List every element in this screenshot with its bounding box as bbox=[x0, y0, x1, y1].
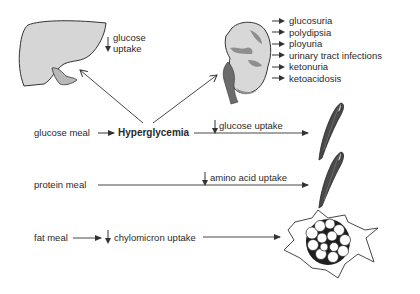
decrease-arrow-icon bbox=[105, 37, 111, 52]
arrow-to-kidney bbox=[153, 75, 217, 123]
effect-label: polydipsia bbox=[289, 27, 331, 38]
chylomicron-uptake-label: chylomicron uptake bbox=[114, 232, 196, 243]
kidney-effects-list: glucosuria polydipsia ployuria urinary t… bbox=[272, 15, 382, 84]
decrease-arrow-icon bbox=[212, 120, 218, 134]
effect-label: ployuria bbox=[289, 38, 322, 49]
muscle-icon bbox=[319, 103, 344, 160]
muscle-glucose-uptake-label: glucose uptake bbox=[219, 120, 283, 131]
decrease-arrow-icon bbox=[105, 230, 111, 244]
list-item: ketonuria bbox=[272, 61, 382, 73]
kidney-icon bbox=[223, 22, 270, 104]
liver-label-line1: glucose bbox=[113, 32, 146, 43]
adipose-cell-icon bbox=[284, 210, 378, 278]
liver-label-line2: uptake bbox=[113, 43, 146, 54]
arrow-right-icon bbox=[272, 28, 286, 36]
list-item: polydipsia bbox=[272, 27, 382, 39]
arrow-right-icon bbox=[272, 74, 286, 82]
liver-icon bbox=[19, 21, 106, 86]
amino-acid-uptake-label: amino acid uptake bbox=[210, 172, 287, 183]
decrease-arrow-icon bbox=[202, 172, 208, 186]
effect-label: ketoacidosis bbox=[289, 73, 341, 84]
hyperglycemia-label: Hyperglycemia bbox=[118, 127, 189, 138]
list-item: urinary tract infections bbox=[272, 50, 382, 62]
arrow-right-icon bbox=[272, 40, 286, 48]
list-item: ketoacidosis bbox=[272, 73, 382, 85]
fat-meal-label: fat meal bbox=[34, 232, 68, 243]
arrow-right-icon bbox=[272, 17, 286, 25]
arrow-to-liver bbox=[80, 70, 143, 123]
list-item: glucosuria bbox=[272, 15, 382, 27]
list-item: ployuria bbox=[272, 38, 382, 50]
liver-label: glucose uptake bbox=[113, 32, 146, 54]
arrow-right-icon bbox=[272, 51, 286, 59]
protein-meal-label: protein meal bbox=[34, 179, 86, 190]
effect-label: urinary tract infections bbox=[289, 50, 382, 61]
arrow-right-icon bbox=[272, 63, 286, 71]
muscle-icon bbox=[319, 152, 344, 208]
glucose-meal-label: glucose meal bbox=[34, 127, 90, 138]
effect-label: glucosuria bbox=[289, 15, 332, 26]
effect-label: ketonuria bbox=[289, 61, 328, 72]
